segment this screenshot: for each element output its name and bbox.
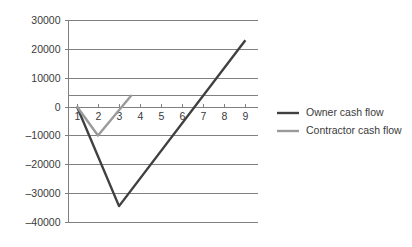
x-axis-tick-label: 4 xyxy=(138,110,144,122)
legend-label: Contractor cash flow xyxy=(306,124,402,136)
y-axis-tick-label: 30000 xyxy=(31,14,60,26)
x-axis-ticks xyxy=(78,104,246,108)
series-line xyxy=(77,95,132,135)
y-axis-tick-label: 0 xyxy=(55,101,61,113)
y-axis-tick-label: –40000 xyxy=(25,216,60,228)
y-axis-tick-label: –10000 xyxy=(25,129,60,141)
data-series xyxy=(77,40,245,206)
chart-legend: Owner cash flowContractor cash flow xyxy=(277,106,402,136)
cash-flow-line-chart: 3000020000100000–10000–20000–30000–40000… xyxy=(0,0,412,247)
chart-svg: 3000020000100000–10000–20000–30000–40000… xyxy=(0,0,412,247)
y-axis-tick-label: 20000 xyxy=(31,43,60,55)
y-axis-tick-label: 10000 xyxy=(31,72,60,84)
gridlines xyxy=(69,21,259,223)
x-axis-tick-label: 7 xyxy=(201,110,207,122)
x-axis-tick-label: 5 xyxy=(159,110,165,122)
x-axis-tick-label: 2 xyxy=(96,110,102,122)
series-line xyxy=(77,40,245,206)
x-axis-tick-labels: 123456789 xyxy=(75,110,249,122)
x-axis-tick-label: 9 xyxy=(243,110,249,122)
y-axis-tick-labels: 3000020000100000–10000–20000–30000–40000 xyxy=(25,14,60,228)
y-axis-tick-label: –30000 xyxy=(25,187,60,199)
x-axis-tick-label: 8 xyxy=(222,110,228,122)
legend-label: Owner cash flow xyxy=(306,106,384,118)
y-axis-tick-label: –20000 xyxy=(25,158,60,170)
